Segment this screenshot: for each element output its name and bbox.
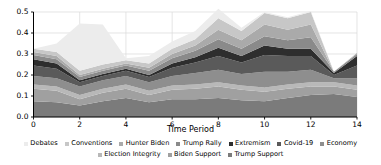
legend-item-conventions[interactable]: Conventions: [65, 140, 113, 147]
legend-label: Trump Rally: [183, 140, 222, 147]
legend-swatch-icon: [168, 153, 172, 157]
y-tick-label: 0.0: [7, 113, 29, 121]
legend-label: Economy: [327, 140, 357, 147]
legend-row-primary: DebatesConventionsHunter BidenTrump Rall…: [0, 138, 381, 149]
y-tick-label: 0.2: [7, 71, 29, 79]
legend-swatch-icon: [98, 153, 102, 157]
legend-item-hunter-biden[interactable]: Hunter Biden: [119, 140, 169, 147]
y-tick-label: 0.4: [7, 29, 29, 37]
legend-label: Biden Support: [174, 151, 221, 158]
legend-swatch-icon: [277, 142, 281, 146]
legend-label: Debates: [30, 140, 57, 147]
legend-label: Election Integrity: [104, 151, 160, 158]
legend-swatch-icon: [228, 153, 232, 157]
legend-item-debates[interactable]: Debates: [24, 140, 58, 147]
y-tick-label: 0.5: [7, 8, 29, 16]
legend-swatch-icon: [229, 142, 233, 146]
legend-item-biden-support[interactable]: Biden Support: [168, 151, 221, 158]
legend-swatch-icon: [176, 142, 180, 146]
legend-label: Conventions: [71, 140, 112, 147]
legend-swatch-icon: [24, 142, 28, 146]
legend-swatch-icon: [65, 142, 69, 146]
legend-item-extremism[interactable]: Extremism: [229, 140, 271, 147]
y-tick-label: 0.3: [7, 50, 29, 58]
x-axis-label: Time Period: [0, 126, 381, 134]
legend-label: Covid-19: [284, 140, 313, 147]
legend-swatch-icon: [119, 142, 123, 146]
legend-label: Extremism: [235, 140, 270, 147]
stacked-areas: [34, 9, 358, 117]
y-tick-label: 0.1: [7, 92, 29, 100]
chart-legend: DebatesConventionsHunter BidenTrump Rall…: [0, 138, 381, 160]
legend-item-trump-rally[interactable]: Trump Rally: [176, 140, 221, 147]
stacked-area-chart-figure: 0.00.10.20.30.40.5 02468101214 Time Peri…: [0, 0, 381, 165]
legend-label: Trump Support: [235, 151, 284, 158]
legend-label: Hunter Biden: [126, 140, 170, 147]
legend-swatch-icon: [320, 142, 324, 146]
legend-row-secondary: Election IntegrityBiden SupportTrump Sup…: [0, 149, 381, 160]
legend-item-covid-19[interactable]: Covid-19: [277, 140, 313, 147]
legend-item-election-integrity[interactable]: Election Integrity: [98, 151, 161, 158]
legend-item-economy[interactable]: Economy: [320, 140, 357, 147]
legend-item-trump-support[interactable]: Trump Support: [228, 151, 283, 158]
